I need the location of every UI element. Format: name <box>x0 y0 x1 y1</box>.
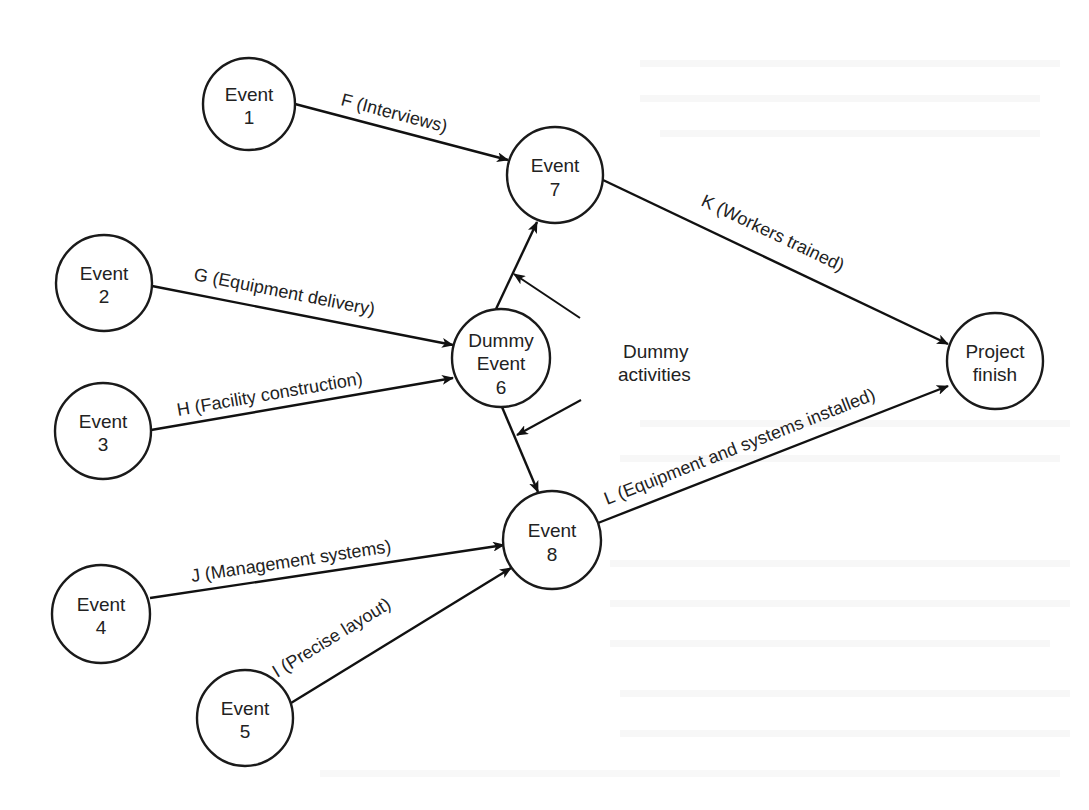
node-label-line-2: Event <box>477 353 526 374</box>
node-label: Event <box>80 263 129 284</box>
activity-j-label: J (Management systems) <box>190 536 393 586</box>
node-number: 5 <box>240 721 251 742</box>
activity-g-equipment-delivery: G (Equipment delivery) <box>152 264 453 345</box>
arrow-l <box>598 386 948 523</box>
pert-network-diagram: F (Interviews) G (Equipment delivery) H … <box>0 0 1089 810</box>
node-label-line-1: Dummy <box>468 330 534 351</box>
activity-j-management-systems: J (Management systems) <box>150 536 504 598</box>
node-label-line-1: Project <box>965 341 1025 362</box>
activity-h-label: H (Facility construction) <box>175 368 364 420</box>
activity-k-workers-trained: K (Workers trained) <box>603 180 948 344</box>
activity-i-precise-layout: I (Precise layout) <box>269 568 511 703</box>
node-number: 1 <box>244 107 255 128</box>
node-number: 7 <box>550 179 561 200</box>
node-label: Event <box>79 411 128 432</box>
node-event-1: Event 1 <box>203 58 295 150</box>
annotation-line-2: activities <box>618 364 691 385</box>
node-label: Event <box>528 520 577 541</box>
activity-h-facility-construction: H (Facility construction) <box>151 368 453 430</box>
node-label: Event <box>221 698 270 719</box>
activity-l-equipment-systems-installed: L (Equipment and systems installed) <box>598 384 948 523</box>
node-number: 6 <box>496 377 507 398</box>
dummy-activity-6-to-7-arrow <box>496 222 537 309</box>
node-event-3: Event 3 <box>55 383 151 479</box>
node-event-2: Event 2 <box>56 235 152 331</box>
node-number: 4 <box>96 617 107 638</box>
node-event-7: Event 7 <box>507 127 603 223</box>
node-event-4: Event 4 <box>52 565 150 663</box>
node-label: Event <box>531 155 580 176</box>
dummy-activity-6-to-8-arrow <box>502 407 538 492</box>
node-number: 3 <box>98 434 109 455</box>
annotation-pointer-upper <box>514 274 580 318</box>
arrow-k <box>603 180 948 344</box>
annotation-pointer-lower <box>517 400 581 435</box>
page-bleed-texture <box>320 60 1070 777</box>
node-number: 2 <box>99 286 110 307</box>
node-dummy-event-6: Dummy Event 6 <box>452 309 550 407</box>
node-label: Event <box>225 84 274 105</box>
activity-f-interviews: F (Interviews) <box>295 90 508 160</box>
node-project-finish: Project finish <box>947 313 1043 409</box>
annotation-line-1: Dummy <box>623 341 689 362</box>
node-event-8: Event 8 <box>503 491 601 589</box>
node-number: 8 <box>547 544 558 565</box>
node-label: Event <box>77 594 126 615</box>
activity-l-label: L (Equipment and systems installed) <box>601 384 878 508</box>
dummy-activities-annotation: Dummy activities <box>618 341 691 385</box>
node-event-5: Event 5 <box>197 670 293 766</box>
activity-k-label: K (Workers trained) <box>698 191 847 276</box>
activity-i-label: I (Precise layout) <box>269 594 395 682</box>
node-label-line-2: finish <box>973 364 1017 385</box>
